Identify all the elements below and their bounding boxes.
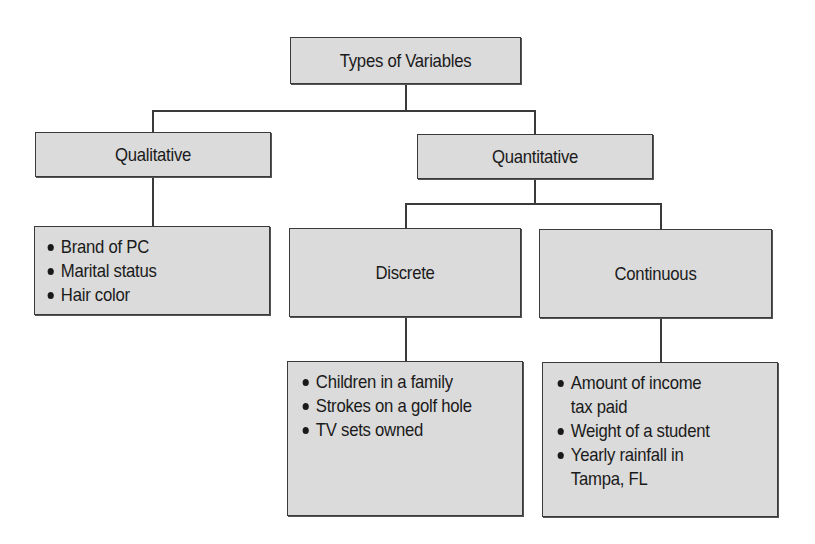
connector-discrete-examples [405, 316, 407, 361]
node-types-of-variables: Types of Variables [290, 37, 521, 84]
list-item: TV sets owned [300, 418, 472, 442]
node-qualitative-examples: Brand of PC Marital status Hair color [34, 226, 270, 315]
list-item: Amount of income [555, 371, 710, 395]
example-list: Children in a family Strokes on a golf h… [300, 370, 472, 442]
connector-qualitative-examples [152, 176, 154, 226]
node-label: Types of Variables [340, 50, 472, 72]
example-list: Brand of PC Marital status Hair color [45, 235, 157, 307]
list-item: Hair color [45, 283, 157, 307]
list-item: Brand of PC [45, 235, 157, 259]
connector-continuous-examples [660, 317, 662, 362]
node-qualitative: Qualitative [35, 132, 271, 177]
node-label: Qualitative [115, 144, 191, 166]
example-list: Amount of income tax paid Weight of a st… [555, 371, 710, 491]
list-item: Weight of a student [555, 419, 710, 443]
list-item: Yearly rainfall in [555, 443, 710, 467]
list-item-continuation: Tampa, FL [555, 467, 710, 491]
node-label: Quantitative [492, 146, 578, 168]
list-item: Children in a family [300, 370, 472, 394]
node-continuous-examples: Amount of income tax paid Weight of a st… [542, 362, 778, 517]
node-quantitative: Quantitative [417, 134, 653, 179]
connector-to-continuous [660, 203, 662, 229]
connector-root-branch [152, 110, 536, 112]
list-item: Marital status [45, 259, 157, 283]
node-label: Discrete [375, 262, 434, 284]
connector-quantitative-branch [405, 203, 661, 205]
connector-to-qualitative [152, 110, 154, 132]
list-item-continuation: tax paid [555, 395, 710, 419]
connector-quantitative-down [534, 178, 536, 204]
connector-to-discrete [405, 203, 407, 228]
connector-to-quantitative [534, 110, 536, 134]
node-discrete-examples: Children in a family Strokes on a golf h… [287, 361, 523, 516]
node-discrete: Discrete [289, 228, 521, 317]
connector-root-down [405, 83, 407, 111]
node-continuous: Continuous [539, 229, 772, 318]
list-item: Strokes on a golf hole [300, 394, 472, 418]
node-label: Continuous [615, 263, 697, 285]
